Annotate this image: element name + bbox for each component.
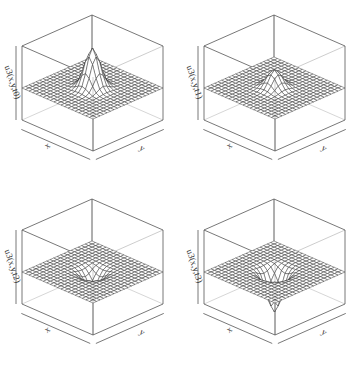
x-axis-label: x <box>224 140 234 151</box>
plot-canvas: u3(x,y,t0) x y <box>0 0 181 183</box>
z-axis-label: u3(x,y,t1) <box>185 64 205 100</box>
x-axis-label: x <box>42 140 52 151</box>
surface-mesh <box>204 241 345 312</box>
surface-plot-t0: u3(x,y,t0) x y <box>0 0 181 183</box>
surface-mesh <box>22 241 163 303</box>
y-axis-label: y <box>138 143 148 154</box>
z-axis-label: u3(x,y,t3) <box>185 248 205 284</box>
z-axis-label: u3(x,y,t2) <box>3 248 23 284</box>
z-axis-label: u3(x,y,t0) <box>3 64 23 100</box>
surface-mesh <box>22 48 163 119</box>
x-axis-label: x <box>224 324 234 335</box>
plot-canvas: u3(x,y,t3) x y <box>182 184 363 367</box>
y-axis-label: y <box>138 327 148 338</box>
surface-plot-t3: u3(x,y,t3) x y <box>182 184 363 367</box>
plot-canvas: u3(x,y,t1) x y <box>182 0 363 183</box>
y-axis-label: y <box>320 143 330 154</box>
surface-plot-t1: u3(x,y,t1) x y <box>182 0 363 183</box>
surface-mesh <box>204 57 345 119</box>
y-axis-label: y <box>320 327 330 338</box>
surface-plot-t2: u3(x,y,t2) x y <box>0 184 181 367</box>
x-axis-label: x <box>42 324 52 335</box>
plot-canvas: u3(x,y,t2) x y <box>0 184 181 367</box>
